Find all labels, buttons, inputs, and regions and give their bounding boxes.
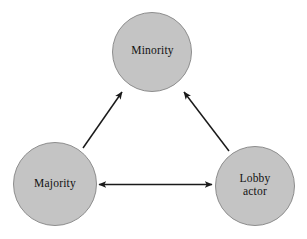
node-minority-circle[interactable] — [113, 13, 192, 92]
node-lobby-actor-circle[interactable] — [216, 147, 295, 226]
node-majority-circle[interactable] — [14, 143, 97, 226]
relationship-diagram — [0, 0, 307, 239]
edge-lobby-actor-to-minority — [184, 92, 229, 151]
edge-majority-to-minority — [83, 92, 122, 148]
